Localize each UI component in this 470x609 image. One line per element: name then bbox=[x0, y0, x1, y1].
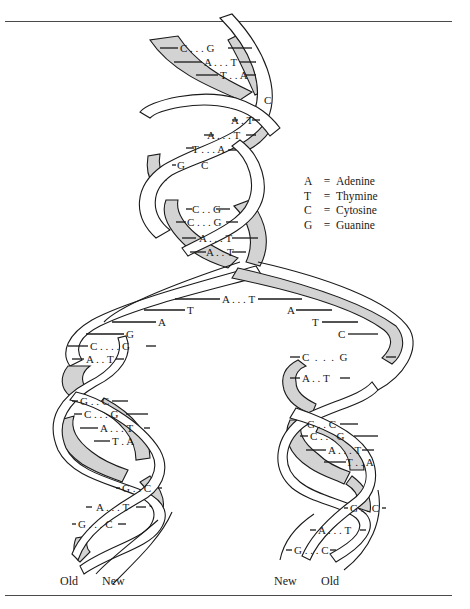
legend-key: T bbox=[304, 189, 318, 204]
right-new-strand-label: New bbox=[274, 575, 297, 587]
base-pair: C . . . G bbox=[302, 352, 348, 363]
right-old-strand-label: Old bbox=[321, 575, 339, 587]
legend-value: Cytosine bbox=[336, 203, 377, 218]
fork-left-base: A bbox=[158, 317, 166, 328]
base-pair: A . . . T bbox=[318, 525, 351, 536]
base-pair: G . . C bbox=[80, 396, 109, 407]
legend-key: G bbox=[304, 218, 318, 233]
legend-equals: = bbox=[318, 174, 336, 189]
base-pair: A . . . T bbox=[100, 423, 133, 434]
base-pair: G . . C bbox=[122, 483, 151, 494]
base-pair: C bbox=[201, 160, 208, 171]
base-pair: C . . G bbox=[192, 204, 221, 215]
legend-key: C bbox=[304, 203, 318, 218]
base-pair: C bbox=[264, 95, 271, 106]
base-pair: G bbox=[177, 160, 185, 171]
left-old-strand-label: Old bbox=[60, 575, 78, 587]
legend-equals: = bbox=[318, 218, 336, 233]
base-pair: A . . . T bbox=[96, 502, 129, 513]
base-pair: C . . . G bbox=[84, 409, 119, 420]
legend-value: Thymine bbox=[336, 189, 378, 204]
base-pair: A . T bbox=[231, 115, 253, 126]
legend-equals: = bbox=[318, 189, 336, 204]
fork-left-base: G bbox=[126, 329, 134, 340]
base-pair: G . . C bbox=[307, 419, 336, 430]
base-pair: A . . . T bbox=[199, 233, 232, 244]
fork-left-base: T bbox=[187, 305, 194, 316]
base-pair: G . . C bbox=[350, 503, 379, 514]
legend-row-adenine: A = Adenine bbox=[304, 174, 378, 189]
base-pair: C . . . G bbox=[187, 217, 222, 228]
fork-base-pair: A . . . T bbox=[222, 294, 255, 305]
legend-equals: = bbox=[318, 203, 336, 218]
legend-row-thymine: T = Thymine bbox=[304, 189, 378, 204]
legend-value: Adenine bbox=[336, 174, 375, 189]
legend-value: Guanine bbox=[336, 218, 375, 233]
base-pair: A . . . T bbox=[328, 445, 361, 456]
base-pair: T . . . A bbox=[192, 144, 225, 155]
legend-row-guanine: G = Guanine bbox=[304, 218, 378, 233]
base-pair: T . . A bbox=[220, 70, 248, 81]
base-pair: A . . . T bbox=[204, 57, 237, 68]
base-pair: T . . A bbox=[346, 457, 374, 468]
base-pair: G . . . C bbox=[78, 519, 113, 530]
base-pair: A . . . T bbox=[207, 130, 240, 141]
base-pair: G . . . C bbox=[294, 545, 329, 556]
legend-row-cytosine: C = Cytosine bbox=[304, 203, 378, 218]
base-pair: A . . T bbox=[302, 373, 330, 384]
fork-right-base: T bbox=[312, 317, 319, 328]
base-pair: A . . T bbox=[86, 354, 114, 365]
legend-key: A bbox=[304, 174, 318, 189]
base-pair: T . A bbox=[112, 436, 134, 447]
base-pair: C . . . . G bbox=[90, 341, 130, 352]
base-legend: A = Adenine T = Thymine C = Cytosine G =… bbox=[304, 174, 378, 232]
base-pair: C . . . G bbox=[180, 43, 215, 54]
base-pair: A . . T bbox=[206, 247, 234, 258]
left-new-strand-label: New bbox=[102, 575, 125, 587]
fork-right-base: C bbox=[338, 329, 345, 340]
fork-right-base: A bbox=[287, 305, 295, 316]
base-pair: C . . . G bbox=[310, 431, 345, 442]
